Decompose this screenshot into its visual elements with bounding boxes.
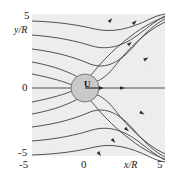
- x-tick-neg5: -5: [19, 159, 28, 170]
- y-tick-neg5: -5: [18, 147, 27, 158]
- cylinder-label: U: [84, 79, 91, 89]
- y-axis-label: y/R: [14, 25, 27, 35]
- x-tick-0: 0: [81, 159, 87, 170]
- x-tick-5: 5: [157, 159, 163, 170]
- streamline-figure: U 5 0 -5 y/R -5 0 5 x/R: [0, 0, 171, 176]
- y-tick-5: 5: [24, 10, 30, 21]
- y-tick-0: 0: [22, 82, 28, 93]
- x-axis-label: x/R: [124, 160, 137, 170]
